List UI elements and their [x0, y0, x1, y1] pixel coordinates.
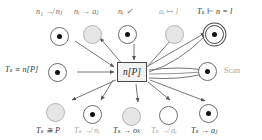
edge-bot-3 [136, 84, 138, 102]
label-top-1: n₁ ↛ nⱼ [36, 8, 62, 16]
node-top-2[interactable] [83, 25, 102, 44]
label-bot-5: Tₛ → aⱼ [191, 127, 218, 135]
node-top-5[interactable] [205, 25, 224, 44]
token-dot [206, 111, 211, 116]
center-node-label: n[P] [123, 67, 141, 77]
node-bot-3[interactable] [122, 107, 141, 126]
node-top-3[interactable] [118, 25, 137, 44]
label-top-5: Tₛ ⊢ n = l [197, 8, 232, 16]
node-top-4[interactable] [165, 25, 184, 44]
edge-bot-1 [72, 80, 116, 100]
label-top-3: nᵢ ✓ [118, 8, 133, 16]
token-dot [125, 32, 130, 37]
label-right-scan: Scan [224, 67, 240, 75]
token-dot [55, 70, 60, 75]
node-bot-4[interactable] [159, 106, 178, 125]
token-dot [57, 34, 62, 39]
edge-plain-right [149, 72, 202, 74]
edge-right-1a [149, 68, 203, 70]
label-top-4: aᵢ ↦ l [159, 8, 178, 16]
token-dot [205, 69, 210, 74]
edge-bot-4 [148, 82, 170, 100]
node-left-1[interactable] [48, 63, 67, 82]
diagram-canvas: n[P] n₁ ↛ nⱼ nᵢ → aⱼ nᵢ ✓ aᵢ ↦ l Tₛ ⊢ n … [0, 0, 262, 140]
node-top-1[interactable] [50, 27, 69, 46]
label-bot-3: Tₛ → oₖ [113, 127, 140, 135]
node-bot-5[interactable] [199, 104, 218, 123]
edge-bot-2 [101, 80, 113, 100]
node-bot-1[interactable] [46, 103, 65, 122]
edge-top-1 [75, 41, 114, 67]
label-bot-2: Tₛ ↛ nᵢ [74, 127, 100, 135]
label-bot-4: Tₛ ↛ aᵢ [151, 127, 177, 135]
node-bot-2[interactable] [83, 105, 102, 124]
center-node-n-of-p[interactable]: n[P] [117, 62, 147, 82]
node-right-1[interactable] [198, 62, 217, 81]
token-dot [90, 112, 95, 117]
label-top-2: nᵢ → aⱼ [74, 8, 99, 16]
token-dot [212, 32, 217, 37]
edge-right-1b [149, 74, 203, 79]
label-left-1: Tₛ ≡ n[P] [5, 66, 38, 74]
label-bot-1: Tₛ ≅ P [36, 127, 60, 135]
